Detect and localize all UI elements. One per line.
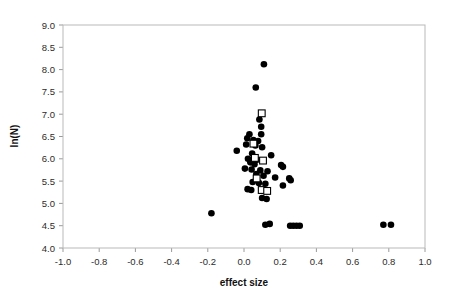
data-point-circle: [287, 177, 294, 184]
data-point-circle: [272, 174, 279, 181]
y-axis-title: ln(N): [9, 125, 20, 148]
data-point-circle: [261, 61, 268, 68]
data-point-circle: [258, 131, 265, 138]
data-point-circle: [260, 172, 267, 179]
x-tick-label: -0.2: [200, 256, 216, 267]
data-point-circle: [280, 182, 287, 189]
data-point-circle: [296, 222, 303, 229]
data-point-circle: [242, 165, 249, 172]
data-point-square: [264, 188, 271, 195]
y-tick-label: 7.0: [42, 109, 55, 120]
y-tick-label: 9.0: [42, 20, 55, 31]
data-point-circle: [233, 147, 240, 154]
y-tick-label: 4.0: [42, 243, 55, 254]
data-point-circle: [266, 221, 273, 228]
y-tick-label: 4.5: [42, 220, 55, 231]
y-tick-label: 7.5: [42, 86, 55, 97]
y-tick-label: 6.0: [42, 153, 55, 164]
x-tick-label: 0.8: [382, 256, 395, 267]
data-point-circle: [388, 222, 395, 229]
data-point-circle: [248, 187, 255, 194]
x-tick-label: -1.0: [55, 256, 71, 267]
chart-canvas: 4.04.55.05.56.06.57.07.58.08.59.0 -1.0-0…: [0, 0, 450, 302]
x-tick-label: 0.2: [274, 256, 287, 267]
data-point-circle: [259, 144, 266, 151]
y-tick-label: 6.5: [42, 131, 55, 142]
data-point-circle: [268, 152, 275, 159]
data-point-circle: [243, 141, 250, 148]
y-tick-label: 8.0: [42, 64, 55, 75]
data-point-square: [258, 110, 265, 117]
data-point-square: [251, 155, 258, 162]
y-tick-label: 8.5: [42, 42, 55, 53]
data-point-square: [253, 175, 260, 182]
data-point-circle: [252, 84, 259, 91]
x-tick-label: 0.0: [237, 256, 250, 267]
data-point-circle: [380, 222, 387, 229]
x-tick-label: -0.8: [91, 256, 107, 267]
x-tick-label: 0.6: [346, 256, 359, 267]
data-point-circle: [280, 164, 287, 171]
x-tick-label: -0.4: [163, 256, 179, 267]
x-tick-label: 0.4: [310, 256, 323, 267]
x-axis-title: effect size: [220, 277, 269, 288]
data-point-circle: [263, 196, 270, 203]
scatter-plot-figure: 4.04.55.05.56.06.57.07.58.08.59.0 -1.0-0…: [0, 0, 450, 302]
data-point-square: [250, 140, 257, 147]
x-tick-label: 1.0: [418, 256, 431, 267]
y-tick-label: 5.0: [42, 198, 55, 209]
data-point-circle: [258, 123, 265, 130]
x-tick-label: -0.6: [127, 256, 143, 267]
data-point-circle: [208, 210, 215, 217]
data-point-square: [260, 157, 267, 164]
y-tick-label: 5.5: [42, 176, 55, 187]
